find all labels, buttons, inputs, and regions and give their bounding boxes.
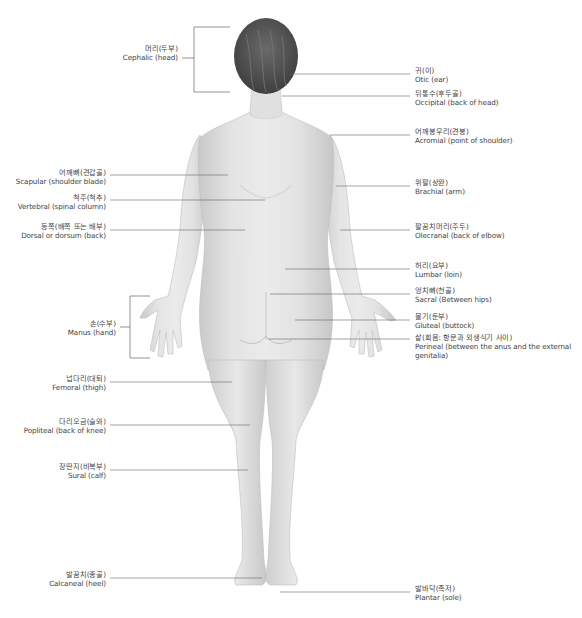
label-popliteal: 다리오금(슬와) Popliteal (back of knee) <box>24 417 106 435</box>
label-femoral: 넙다리(대퇴) Femoral (thigh) <box>52 374 106 392</box>
label-lumbar: 허리(요부) Lumbar (loin) <box>415 261 462 279</box>
left-leg <box>208 360 266 585</box>
label-calcaneal: 발꿈치(종골) Calcaneal (heel) <box>49 570 106 588</box>
label-vertebral: 척주(척추) Vertebral (spinal column) <box>18 193 106 211</box>
label-gluteal: 볼기(둔부) Gluteal (buttock) <box>415 312 474 330</box>
label-brachial: 위팔(상완) Brachial (arm) <box>415 178 465 196</box>
label-plantar: 발바닥(족저) Plantar (sole) <box>415 584 462 602</box>
label-olecranal: 팔꿈치머리(주두) Olecranal (back of elbow) <box>415 222 505 240</box>
label-perineal: 샅(회음: 항문과 외생식기 사이) Perineal (between the… <box>415 333 582 360</box>
anatomy-figure: 머리(두부) Cephalic (head) 어깨뼈(견갑골) Scapular… <box>0 0 582 618</box>
label-cephalic: 머리(두부) Cephalic (head) <box>123 44 178 62</box>
label-otic: 귀(이) Otic (ear) <box>415 66 448 84</box>
head-hair <box>234 18 298 94</box>
label-occipital: 뒤통수(후두골) Occipital (back of head) <box>415 89 498 107</box>
label-dorsal: 등쪽(배쪽 또는 배부) Dorsal or dorsum (back) <box>21 222 106 240</box>
label-sural: 장딴지(비복부) Sural (calf) <box>59 462 106 480</box>
label-manus: 손(수부) Manus (hand) <box>68 319 116 337</box>
label-sacral: 엉치뼈(천골) Sacral (Between hips) <box>415 286 492 304</box>
label-scapular: 어깨뼈(견갑골) Scapular (shoulder blade) <box>16 168 106 186</box>
label-acromial: 어깨봉우리(견봉) Acromial (point of shoulder) <box>415 127 512 145</box>
right-leg <box>266 360 324 585</box>
